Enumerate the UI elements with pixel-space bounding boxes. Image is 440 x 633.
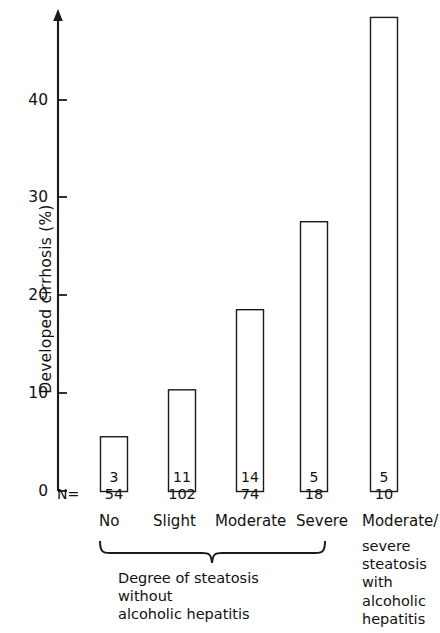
bar-count-no: 3 bbox=[100, 470, 128, 484]
bar-count-slight: 11 bbox=[168, 470, 196, 484]
y-tick-label-10: 10 bbox=[14, 386, 48, 402]
n-value-moderate: 74 bbox=[227, 487, 273, 502]
right-group-caption-line-3: with bbox=[362, 573, 440, 591]
category-label-slight: Slight bbox=[153, 514, 196, 529]
n-value-severe: 18 bbox=[291, 487, 337, 502]
y-tick-label-30: 30 bbox=[14, 190, 48, 206]
y-axis-ticks bbox=[58, 100, 67, 491]
n-value-slight: 102 bbox=[159, 487, 205, 502]
category-label-moderate: Moderate bbox=[215, 514, 286, 529]
n-value-moderate-severe-ah: 10 bbox=[361, 487, 407, 502]
right-group-caption-line-5: hepatitis bbox=[362, 610, 440, 628]
n-row-prefix: N= bbox=[57, 487, 79, 501]
y-tick-label-40: 40 bbox=[14, 93, 48, 109]
bar-count-moderate: 14 bbox=[236, 470, 264, 484]
right-group-caption-line-2: steatosis bbox=[362, 555, 440, 573]
bar-moderate-severe-ah bbox=[371, 17, 398, 491]
right-group-caption-line-1: severe bbox=[362, 537, 440, 555]
category-label-moderate-severe-ah: Moderate/ bbox=[362, 514, 438, 529]
group-brace bbox=[100, 541, 325, 563]
group-brace-caption-line-1: Degree of steatosis bbox=[118, 569, 334, 587]
group-brace-caption-line-3: alcoholic hepatitis bbox=[118, 605, 334, 623]
right-group-caption: severe steatosis with alcoholic hepatiti… bbox=[362, 537, 440, 628]
y-tick-label-0: 0 bbox=[14, 484, 48, 500]
bar-count-moderate-severe-ah: 5 bbox=[370, 470, 398, 484]
group-brace-caption: Degree of steatosis without alcoholic he… bbox=[118, 569, 334, 623]
bar-severe bbox=[301, 222, 328, 492]
bar-group bbox=[101, 17, 398, 491]
group-brace-caption-line-2: without bbox=[118, 587, 334, 605]
category-label-no: No bbox=[99, 514, 119, 529]
right-group-caption-line-4: alcoholic bbox=[362, 592, 440, 610]
category-label-severe: Severe bbox=[296, 514, 348, 529]
n-value-no: 54 bbox=[91, 487, 137, 502]
bar-count-severe: 5 bbox=[300, 470, 328, 484]
bar-moderate bbox=[237, 310, 264, 492]
y-tick-label-20: 20 bbox=[14, 288, 48, 304]
